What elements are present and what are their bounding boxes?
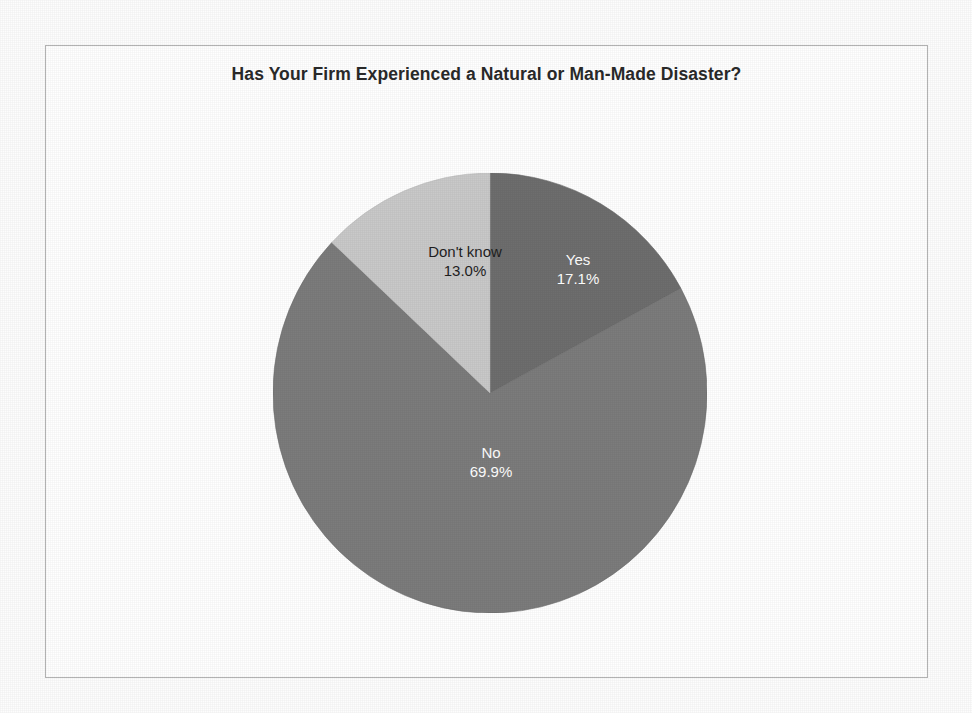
pie-chart-svg bbox=[273, 173, 707, 613]
page-background: Has Your Firm Experienced a Natural or M… bbox=[0, 0, 972, 713]
chart-title: Has Your Firm Experienced a Natural or M… bbox=[46, 64, 927, 85]
chart-frame: Has Your Firm Experienced a Natural or M… bbox=[45, 45, 928, 678]
pie-chart: Don't know 13.0% Yes 17.1% No 69.9% bbox=[273, 173, 707, 613]
